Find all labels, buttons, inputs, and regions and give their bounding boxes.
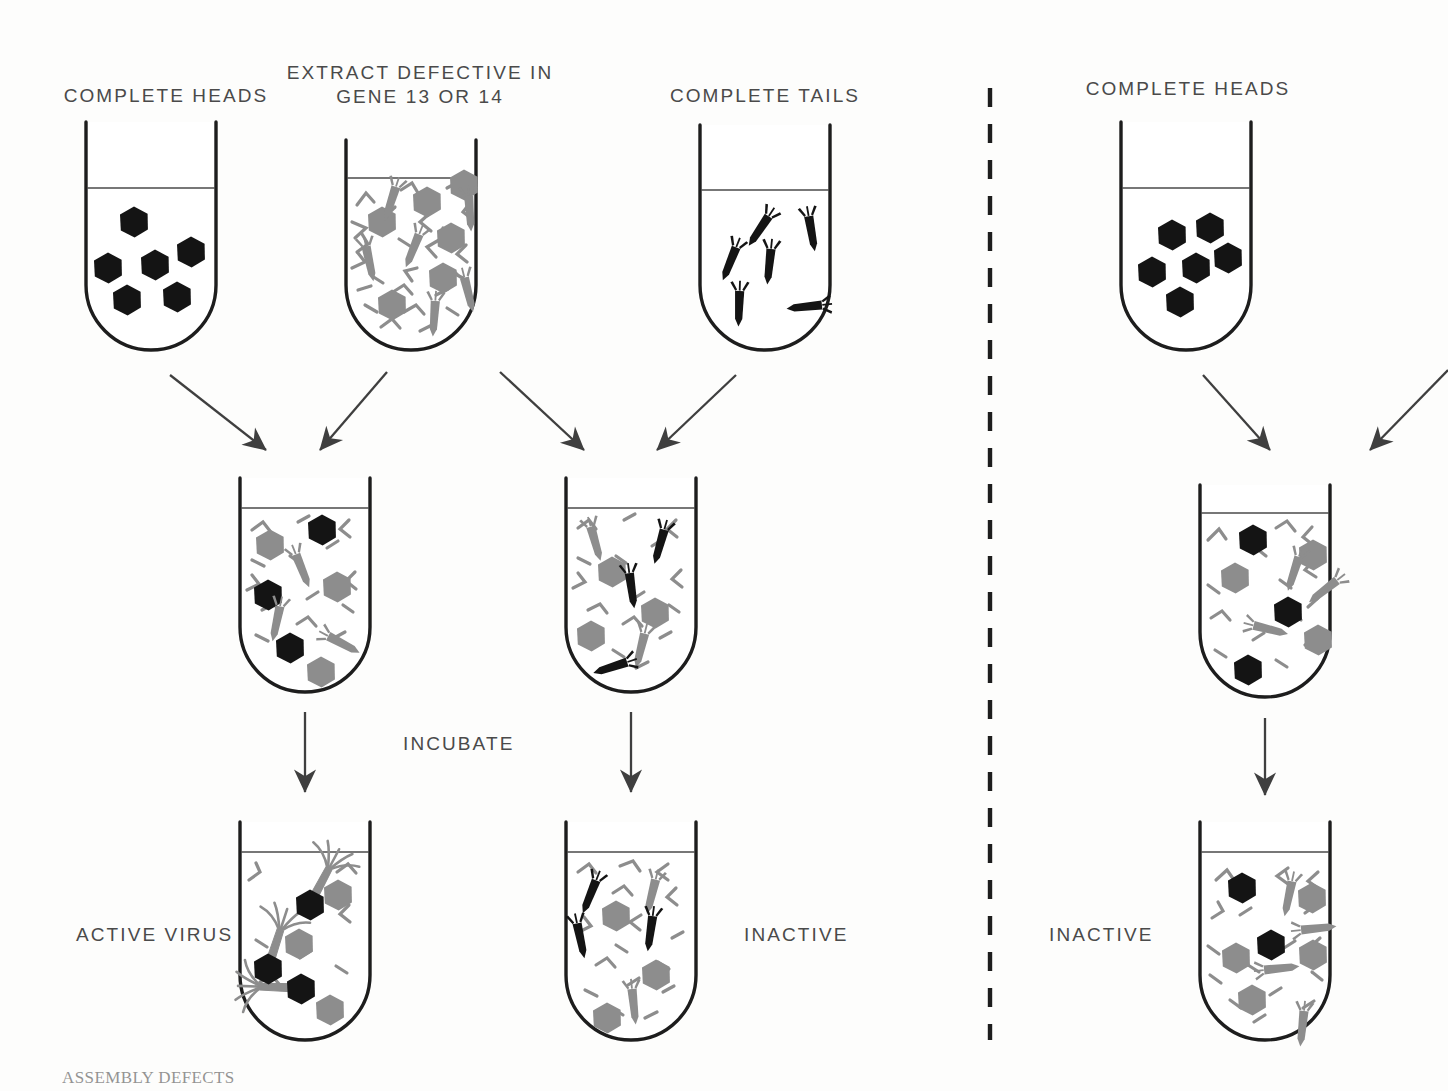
tube-complete-tails — [700, 125, 833, 350]
label-inactive-middle: INACTIVE — [744, 924, 848, 946]
tube-complete-heads-left — [86, 122, 216, 350]
tube-mix-middle — [566, 478, 696, 692]
arrow-tails-to-mixmid — [657, 375, 736, 450]
arrow-group-top-right — [1203, 370, 1448, 450]
label-complete-heads-left: COMPLETE HEADS — [64, 85, 269, 107]
tube-mix-left — [240, 478, 370, 692]
tube-result-active — [235, 822, 370, 1040]
tube-result-inactive-right — [1200, 822, 1337, 1047]
label-complete-heads-right: COMPLETE HEADS — [1086, 78, 1291, 100]
arrow-offscreen-to-mixright — [1370, 370, 1448, 450]
tube-complete-heads-right — [1121, 122, 1251, 350]
label-active-virus: ACTIVE VIRUS — [76, 924, 233, 946]
arrow-heads-to-mixleft — [170, 375, 266, 450]
arrow-group-top-left — [170, 372, 736, 450]
label-extract-line2: GENE 13 OR 14 — [336, 86, 504, 108]
tube-extract-defective — [346, 140, 482, 350]
tube-result-inactive-middle — [566, 822, 696, 1040]
figure-canvas: COMPLETE HEADS EXTRACT DEFECTIVE IN GENE… — [0, 0, 1448, 1091]
label-inactive-right: INACTIVE — [1049, 924, 1153, 946]
arrow-extract-to-mixmid — [500, 372, 584, 450]
arrow-extract-to-mixleft — [320, 372, 387, 450]
arrow-heads-to-mixright — [1203, 375, 1270, 450]
figure-caption: ASSEMBLY DEFECTS — [62, 1068, 235, 1088]
label-complete-tails: COMPLETE TAILS — [670, 85, 860, 107]
label-extract-line1: EXTRACT DEFECTIVE IN — [287, 62, 554, 84]
tube-mix-right — [1200, 485, 1351, 697]
label-incubate: INCUBATE — [403, 733, 514, 755]
